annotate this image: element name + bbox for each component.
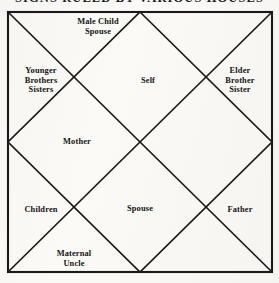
kundali-chart-page: SIGNS RULED BY VARIOUS HOUSES Self Male …	[0, 0, 279, 283]
house-label-maternal-uncle: Maternal Uncle	[39, 249, 109, 268]
page-title: SIGNS RULED BY VARIOUS HOUSES	[0, 0, 279, 4]
house-label-children: Children	[9, 205, 73, 215]
page-header-strip: SIGNS RULED BY VARIOUS HOUSES	[0, 0, 279, 4]
house-label-younger-brothers-sisters: Younger Brothers Sisters	[8, 66, 74, 95]
house-label-mother: Mother	[44, 137, 110, 147]
house-label-father: Father	[211, 205, 269, 215]
house-label-spouse: Spouse	[107, 204, 173, 214]
house-labels-layer: Self Male Child Spouse Younger Brothers …	[0, 0, 279, 283]
house-label-male-child-spouse: Male Child Spouse	[59, 17, 137, 36]
house-label-elder-brother-sister: Elder Brother Sister	[211, 66, 269, 95]
house-label-self: Self	[118, 76, 178, 86]
